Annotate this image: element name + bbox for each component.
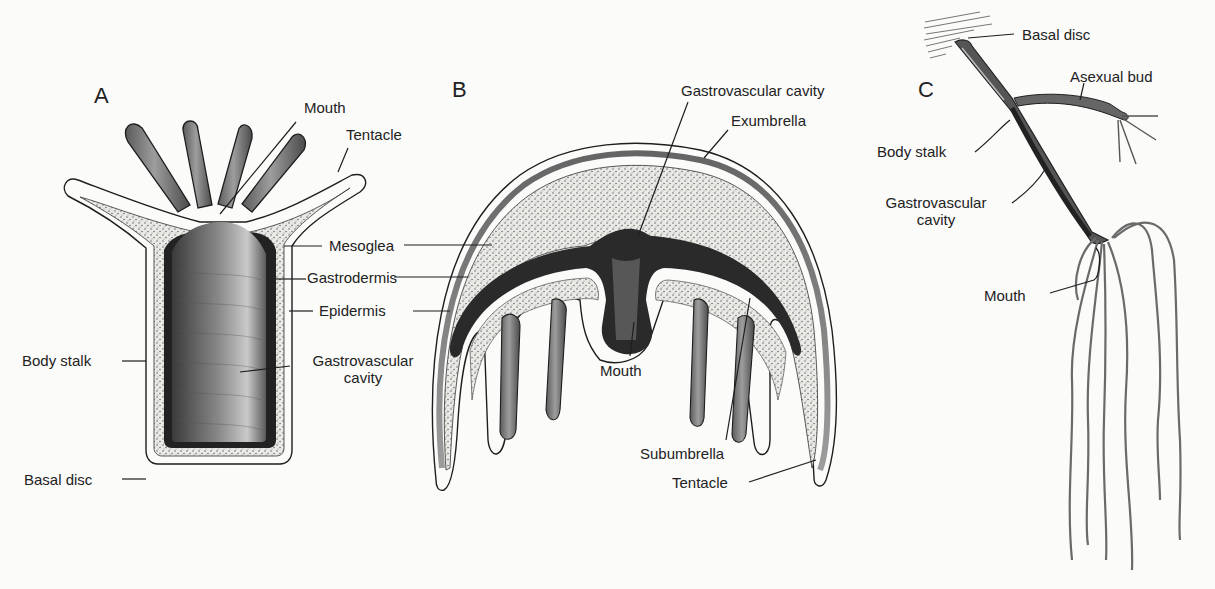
label-a-body-stalk: Body stalk	[22, 352, 91, 369]
label-c-basal-disc: Basal disc	[1022, 26, 1090, 43]
label-a-mesoglea: Mesoglea	[329, 237, 394, 254]
label-a-basal-disc: Basal disc	[24, 471, 92, 488]
panel-a-polyp	[64, 121, 365, 479]
panel-b-medusa	[394, 102, 836, 490]
label-b-gastrovascular-cavity: Gastrovascular cavity	[681, 82, 824, 99]
label-b-exumbrella: Exumbrella	[731, 112, 806, 129]
label-a-epidermis: Epidermis	[319, 302, 386, 319]
label-a-gastrodermis: Gastrodermis	[307, 269, 397, 286]
substrate-hatching	[924, 12, 992, 58]
panel-a-letter: A	[94, 84, 109, 108]
label-a-gastrovascular-cavity: Gastrovascular cavity	[293, 352, 433, 386]
label-b-subumbrella: Subumbrella	[640, 445, 724, 462]
label-b-mouth: Mouth	[600, 362, 642, 379]
label-c-body-stalk: Body stalk	[877, 143, 946, 160]
bud-tentacles	[1118, 116, 1158, 164]
label-a-tentacle: Tentacle	[346, 126, 402, 143]
hydroid-tentacles	[1070, 223, 1181, 570]
label-b-tentacle: Tentacle	[672, 474, 728, 491]
hydroid-asexual-bud	[1014, 94, 1128, 120]
panel-b-letter: B	[452, 78, 467, 102]
label-c-asexual-bud: Asexual bud	[1070, 68, 1153, 85]
label-c-mouth: Mouth	[984, 287, 1026, 304]
panel-c-hydroid	[924, 12, 1181, 570]
panel-c-letter: C	[918, 78, 934, 102]
polyp-tentacles	[125, 121, 305, 212]
diagram-canvas	[0, 0, 1215, 589]
label-c-gastrovascular-cavity: Gastrovascular cavity	[860, 194, 1012, 228]
label-a-mouth: Mouth	[304, 99, 346, 116]
